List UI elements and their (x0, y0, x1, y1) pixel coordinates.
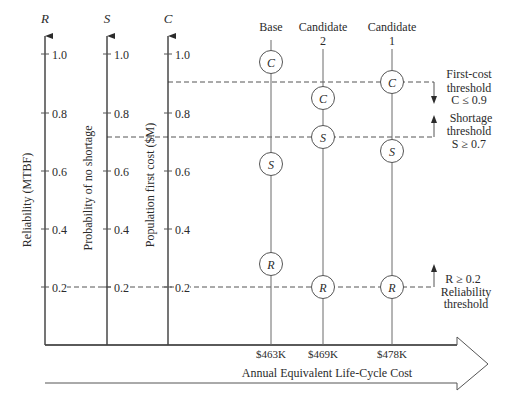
tick-label: 0.8 (175, 107, 190, 121)
base-c-marker: C (260, 51, 283, 74)
tick-label: 0.6 (52, 165, 67, 179)
tick-label: 0.8 (52, 107, 67, 121)
cand2-c-marker: C (312, 87, 335, 110)
svg-text:threshold: threshold (444, 297, 489, 311)
tick-label: 0.4 (114, 223, 129, 237)
tick-label: 0.6 (175, 165, 190, 179)
alt-base-label: Base (259, 20, 282, 34)
tick-label: 0.8 (114, 107, 129, 121)
alt-cand2-number: 2 (320, 34, 326, 48)
reliability-threshold-note: R ≥ 0.2 Reliability threshold (441, 272, 492, 311)
base-s-marker: S (260, 153, 283, 176)
x-axis-label: Annual Equivalent Life-Cycle Cost (242, 366, 413, 380)
svg-text:R: R (387, 281, 396, 295)
tick-label: 1.0 (114, 48, 129, 62)
cand1-r-marker: R (381, 276, 404, 299)
cand1-s-marker: S (381, 140, 404, 163)
alt-cand1-number: 1 (389, 34, 395, 48)
tick-label: 0.2 (52, 281, 67, 295)
svg-text:First-cost: First-cost (446, 67, 492, 81)
svg-text:S ≥ 0.7: S ≥ 0.7 (452, 137, 486, 151)
svg-text:C: C (319, 92, 328, 106)
alt-cand1-label: Candidate (368, 20, 417, 34)
svg-text:R: R (266, 258, 275, 272)
axis-r-symbol: R (40, 11, 49, 26)
svg-text:Shortage: Shortage (450, 111, 493, 125)
reliability-threshold-arrow-icon (431, 264, 437, 287)
tick-label: 1.0 (52, 48, 67, 62)
svg-text:C: C (267, 56, 276, 70)
first-cost-threshold-note: First-cost threshold C ≤ 0.9 (446, 67, 492, 107)
base-r-marker: R (260, 253, 283, 276)
cand2-s-marker: S (312, 126, 335, 149)
alt-cand2-label: Candidate (299, 20, 348, 34)
cost-cand1-label: $478K (377, 348, 407, 360)
cost-cand2-label: $469K (308, 348, 338, 360)
svg-text:R ≥ 0.2: R ≥ 0.2 (445, 272, 481, 286)
cost-axis-label: Population first cost ($M) (143, 123, 157, 247)
svg-text:C: C (388, 76, 397, 90)
svg-text:threshold: threshold (447, 124, 492, 138)
reliability-axis-label: Reliability (MTBF) (20, 153, 34, 247)
tick-label: 0.2 (114, 281, 129, 295)
cand1-c-marker: C (381, 71, 404, 94)
tick-label: 0.4 (52, 223, 67, 237)
cost-base-label: $463K (256, 348, 286, 360)
svg-text:C ≤ 0.9: C ≤ 0.9 (451, 93, 487, 107)
decision-diagram: R S C 1.0 0.8 0.6 0.4 0.2 1.0 0.8 0.6 0.… (0, 0, 509, 403)
axis-s-symbol: S (104, 11, 111, 26)
shortage-axis-label: Probability of no shortage (81, 126, 95, 251)
svg-text:S: S (320, 131, 326, 145)
tick-label: 1.0 (175, 48, 190, 62)
tick-label: 0.6 (114, 165, 129, 179)
axis-c-symbol: C (164, 11, 173, 26)
svg-text:S: S (268, 158, 274, 172)
tick-label: 0.4 (175, 223, 190, 237)
svg-text:R: R (318, 281, 327, 295)
life-cycle-cost-arrow (45, 337, 488, 390)
tick-label: 0.2 (175, 281, 190, 295)
svg-text:S: S (389, 145, 395, 159)
cand2-r-marker: R (312, 276, 335, 299)
shortage-threshold-arrow-icon (431, 115, 437, 137)
shortage-threshold-note: Shortage threshold S ≥ 0.7 (447, 111, 493, 151)
cost-threshold-arrow-icon (431, 82, 437, 104)
